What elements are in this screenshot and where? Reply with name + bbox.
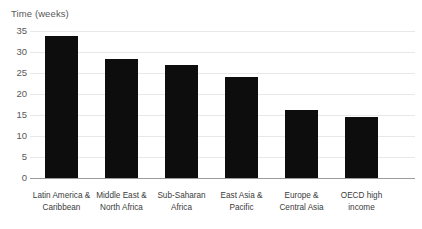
- category-label-line-1: East Asia &: [221, 191, 263, 200]
- y-axis-tick-label: 25: [3, 68, 27, 78]
- category-label-line-1: Europe &: [284, 191, 318, 200]
- y-axis-tick-label: 20: [3, 89, 27, 99]
- y-axis-tick-label: 35: [3, 26, 27, 36]
- bar: [105, 59, 138, 178]
- y-axis-tick-label: 15: [3, 110, 27, 120]
- axis-baseline: [30, 178, 415, 179]
- category-label-line-1: Middle East &: [96, 191, 147, 200]
- bar-chart: Time (weeks) 05101520253035 Latin Americ…: [0, 0, 422, 229]
- category-label-line-1: OECD high: [341, 191, 382, 200]
- bar: [285, 110, 318, 178]
- gridline: [30, 94, 415, 95]
- y-axis-title: Time (weeks): [11, 8, 69, 19]
- x-axis-category-label: OECD highincome: [322, 190, 402, 213]
- bar: [225, 77, 258, 178]
- plot-area: [30, 31, 415, 178]
- gridline: [30, 52, 415, 53]
- bar: [45, 36, 78, 178]
- y-axis-tick-label: 10: [3, 131, 27, 141]
- category-label-line-2: income: [322, 202, 402, 214]
- gridline: [30, 31, 415, 32]
- y-axis-tick-label: 30: [3, 47, 27, 57]
- y-axis-tick-label: 5: [3, 152, 27, 162]
- bar: [165, 65, 198, 178]
- gridline: [30, 73, 415, 74]
- bar: [345, 117, 378, 178]
- category-label-line-1: Sub-Saharan: [157, 191, 205, 200]
- gridline: [30, 115, 415, 116]
- y-axis-tick-label: 0: [3, 173, 27, 183]
